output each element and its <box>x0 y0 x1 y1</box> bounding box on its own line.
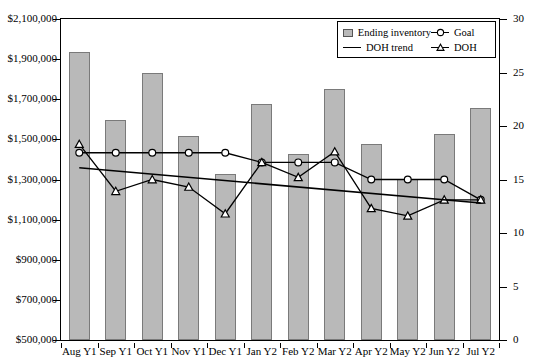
right-axis-tick-mark <box>500 19 507 20</box>
right-axis-tick-mark <box>500 340 507 341</box>
x-axis-tick-label: Feb Y2 <box>282 345 314 358</box>
chart-container: $500,000$700,000$900,000$1,100,000$1,300… <box>0 0 540 359</box>
left-axis-tick-mark <box>53 220 60 221</box>
x-axis-tick-label: Jul Y2 <box>466 345 495 358</box>
left-axis-tick-mark <box>53 99 60 100</box>
x-axis-tick-label: Nov Y1 <box>171 345 206 358</box>
right-axis-tick-label: 0 <box>513 334 519 345</box>
bar-swatch-icon <box>343 29 353 37</box>
x-axis-tick-label: Oct Y1 <box>136 345 168 358</box>
x-axis-tick-mark <box>353 343 354 348</box>
left-axis-tick-label: $1,100,000 <box>8 214 58 225</box>
left-axis-tick-label: $2,100,000 <box>8 13 58 24</box>
left-axis-tick-mark <box>53 59 60 60</box>
triangle-marker-icon <box>431 43 449 52</box>
legend-item-ending-inventory: Ending inventory <box>343 27 431 38</box>
x-axis-tick-mark <box>207 343 208 348</box>
left-axis-tick-label: $900,000 <box>16 254 57 265</box>
legend-label-goal: Goal <box>454 27 474 38</box>
x-axis-tick-mark <box>317 343 318 348</box>
x-axis-tick-label: Aug Y1 <box>62 345 97 358</box>
x-axis-tick-label: Dec Y1 <box>209 345 243 358</box>
right-axis-tick-mark <box>500 180 507 181</box>
right-axis-tick-mark <box>500 233 507 234</box>
legend-row-2: DOH trend DOH <box>343 40 490 55</box>
legend-label-doh: DOH <box>454 42 477 53</box>
legend-item-goal: Goal <box>431 27 474 38</box>
marker-goal <box>331 159 338 166</box>
marker-goal <box>222 149 229 156</box>
plot-area <box>60 18 500 341</box>
x-axis-tick-mark <box>280 343 281 348</box>
x-axis-tick-label: Jan Y2 <box>247 345 277 358</box>
lines-layer <box>61 19 499 340</box>
x-axis-tick-mark <box>426 343 427 348</box>
x-axis-tick-mark <box>171 343 172 348</box>
right-axis-tick-label: 5 <box>513 281 519 292</box>
x-axis-tick-label: May Y2 <box>390 345 426 358</box>
right-axis-tick-mark <box>500 73 507 74</box>
marker-goal <box>404 176 411 183</box>
line-goal <box>79 153 481 200</box>
circle-marker-icon <box>431 28 449 37</box>
marker-goal <box>149 149 156 156</box>
chart-legend: Ending inventory Goal DOH trend DOH <box>337 21 496 58</box>
legend-item-doh: DOH <box>431 42 477 53</box>
left-axis-tick-label: $500,000 <box>16 334 57 345</box>
x-axis-tick-mark <box>61 343 62 348</box>
left-axis-tick-mark <box>53 19 60 20</box>
marker-doh <box>75 140 83 147</box>
marker-doh <box>367 204 375 211</box>
x-axis: Aug Y1Sep Y1Oct Y1Nov Y1Dec Y1Jan Y2Feb … <box>60 343 500 359</box>
left-axis-tick-label: $1,300,000 <box>8 174 58 185</box>
left-axis-tick-label: $700,000 <box>16 294 57 305</box>
left-axis-tick-mark <box>53 300 60 301</box>
x-axis-tick-mark <box>463 343 464 348</box>
x-axis-tick-label: Sep Y1 <box>100 345 132 358</box>
right-axis-tick-label: 30 <box>513 13 524 24</box>
x-axis-tick-label: Apr Y2 <box>355 345 388 358</box>
x-axis-tick-mark <box>134 343 135 348</box>
marker-goal <box>76 149 83 156</box>
left-axis-tick-mark <box>53 340 60 341</box>
marker-goal <box>368 176 375 183</box>
left-axis-tick-label: $1,700,000 <box>8 93 58 104</box>
legend-row-1: Ending inventory Goal <box>343 25 490 40</box>
legend-item-doh-trend: DOH trend <box>343 42 431 53</box>
marker-goal <box>441 176 448 183</box>
x-axis-tick-mark <box>390 343 391 348</box>
left-axis-tick-mark <box>53 180 60 181</box>
right-axis-tick-label: 25 <box>513 67 524 78</box>
left-axis-tick-label: $1,500,000 <box>8 133 58 144</box>
marker-doh <box>331 148 339 155</box>
right-axis-tick-label: 10 <box>513 227 524 238</box>
legend-label-ending-inventory: Ending inventory <box>358 27 431 38</box>
right-axis-tick-mark <box>500 287 507 288</box>
left-axis: $500,000$700,000$900,000$1,100,000$1,300… <box>0 0 57 359</box>
plot-inner <box>61 19 499 340</box>
line-doh-trend <box>79 168 481 203</box>
x-axis-tick-label: Jun Y2 <box>429 345 460 358</box>
marker-goal <box>295 159 302 166</box>
marker-goal <box>185 149 192 156</box>
left-axis-tick-mark <box>53 139 60 140</box>
right-axis-tick-label: 20 <box>513 120 524 131</box>
legend-label-doh-trend: DOH trend <box>366 42 413 53</box>
left-axis-tick-label: $1,900,000 <box>8 53 58 64</box>
left-axis-tick-mark <box>53 260 60 261</box>
right-axis-tick-mark <box>500 126 507 127</box>
plain-line-icon <box>343 47 361 48</box>
marker-doh <box>148 176 156 183</box>
x-axis-tick-mark <box>244 343 245 348</box>
x-axis-tick-mark <box>98 343 99 348</box>
x-axis-tick-label: Mar Y2 <box>318 345 352 358</box>
marker-goal <box>112 149 119 156</box>
right-axis-tick-label: 15 <box>513 174 524 185</box>
marker-doh <box>294 173 302 180</box>
x-axis-tick-mark <box>499 343 500 348</box>
right-axis: 051015202530 <box>504 0 538 359</box>
